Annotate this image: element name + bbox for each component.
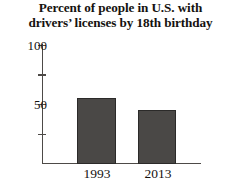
bar-2013: [138, 110, 176, 164]
x-axis-line: [42, 163, 201, 164]
bar-chart-figure: Percent of people in U.S. with drivers’ …: [0, 0, 241, 183]
plot-area: 100 50 1993 2013: [0, 0, 241, 183]
y-tick-label-100: 100: [3, 39, 47, 52]
bar-1993: [77, 98, 116, 164]
x-tick-label-1993: 1993: [70, 166, 124, 182]
y-tick-75: [38, 74, 46, 75]
y-tick-25: [38, 134, 46, 135]
y-tick-label-50: 50: [3, 98, 47, 111]
x-tick-label-2013: 2013: [131, 166, 185, 182]
